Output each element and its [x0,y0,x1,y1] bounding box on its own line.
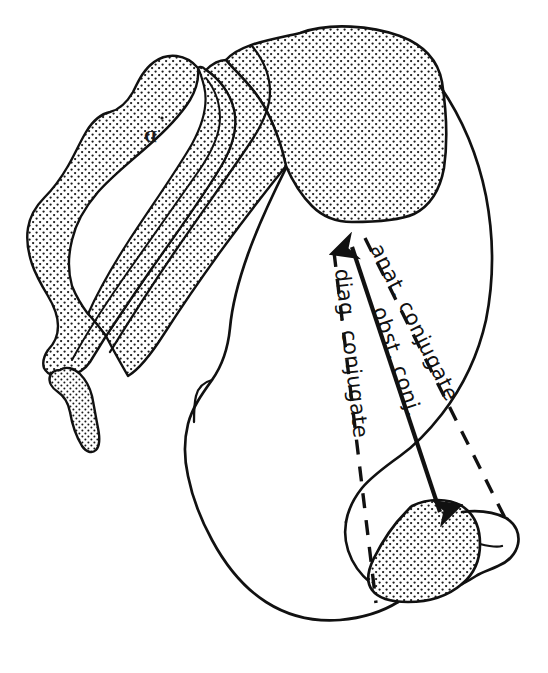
plate-mark-dot [160,116,163,119]
plate-mark: D [144,127,158,146]
pelvis-figure: anat. conjugate obst. conj. diag. conjug… [0,0,548,673]
pelvis-illustration: anat. conjugate obst. conj. diag. conjug… [0,0,548,673]
